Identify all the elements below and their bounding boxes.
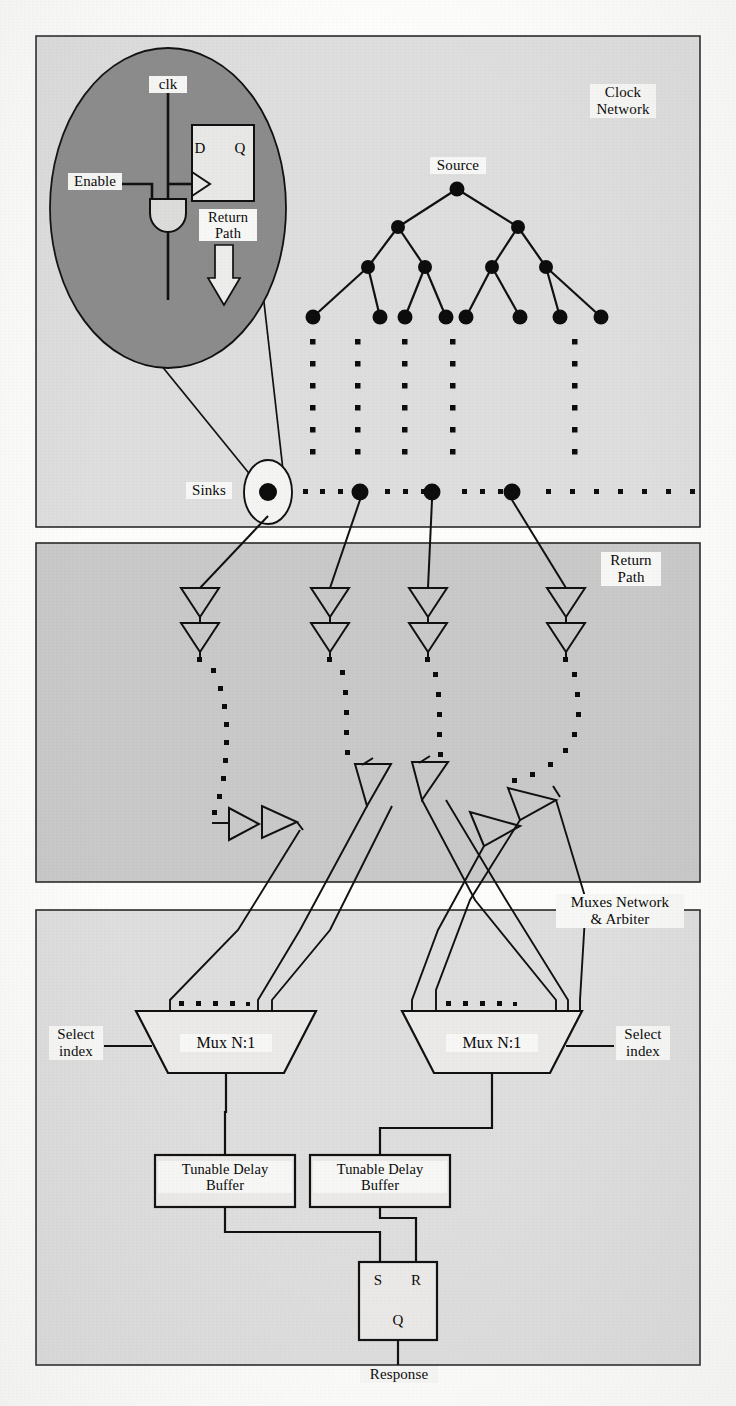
inset-return-path-label: Return Path <box>199 209 257 241</box>
tree-leaf <box>373 310 388 325</box>
tunable-delay-buffer-right-label: Tunable Delay Buffer <box>313 1161 447 1193</box>
sink-node <box>424 484 441 501</box>
and-gate <box>150 199 186 232</box>
tree-node <box>485 260 499 274</box>
sink-node <box>352 484 369 501</box>
sink-node-highlighted <box>259 483 277 501</box>
tree-leaf <box>594 310 609 325</box>
source-label: Source <box>430 157 486 174</box>
tree-node <box>361 260 375 274</box>
panel-label-muxes-arbiter: Muxes Network & Arbiter <box>556 894 684 928</box>
tree-leaf <box>459 310 474 325</box>
flipflop-q-label: Q <box>232 140 248 157</box>
mux-left-output-wire <box>225 1073 226 1155</box>
tree-leaf <box>306 310 321 325</box>
mux-left-label: Mux N:1 <box>180 1034 272 1052</box>
tree-leaf <box>398 310 413 325</box>
flipflop-d-label: D <box>192 140 208 157</box>
diagram-canvas <box>0 0 736 1406</box>
figure-root: Clock Network Return Path Muxes Network … <box>0 0 736 1406</box>
tree-leaf <box>513 310 528 325</box>
mux-left-select-index-label: Select index <box>49 1026 103 1060</box>
tree-node-source <box>450 182 465 197</box>
sr-latch-q-label: Q <box>390 1312 406 1329</box>
clk-label: clk <box>149 76 187 93</box>
tree-node <box>391 220 405 234</box>
tree-leaf <box>553 310 568 325</box>
tree-node <box>511 220 525 234</box>
tunable-delay-buffer-left-label: Tunable Delay Buffer <box>158 1161 292 1193</box>
panel-return-path <box>36 543 700 882</box>
enable-label: Enable <box>68 173 122 190</box>
sr-latch-r-label: R <box>408 1272 424 1289</box>
sinks-label: Sinks <box>186 482 232 499</box>
tree-leaf <box>439 310 454 325</box>
panel-label-clock-network: Clock Network <box>590 84 656 118</box>
tree-node <box>418 260 432 274</box>
mux-right-label: Mux N:1 <box>446 1034 538 1052</box>
tree-node <box>539 260 553 274</box>
sink-node <box>504 484 521 501</box>
response-label: Response <box>360 1366 438 1383</box>
sr-latch-s-label: S <box>370 1272 386 1289</box>
mux-right-select-index-label: Select index <box>616 1026 670 1060</box>
panel-label-return-path: Return Path <box>601 552 661 586</box>
